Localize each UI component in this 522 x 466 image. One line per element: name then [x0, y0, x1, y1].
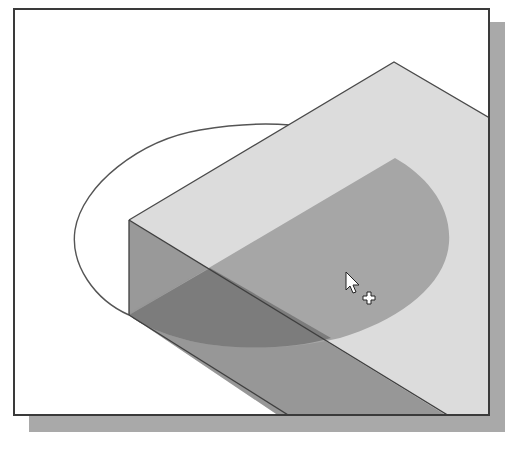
viewport-shadow-bottom — [29, 416, 505, 432]
cad-stage: 3D model viewport — [0, 0, 522, 466]
model-canvas[interactable] — [13, 8, 490, 416]
viewport-shadow-right — [490, 22, 505, 432]
model-viewport[interactable]: 3D model viewport — [13, 8, 490, 416]
